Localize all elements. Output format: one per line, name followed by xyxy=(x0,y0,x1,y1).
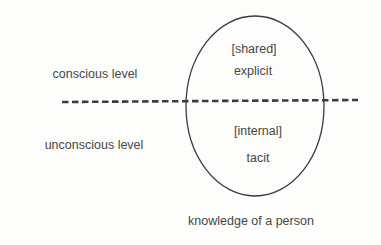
shared-tag: [shared] xyxy=(231,43,276,56)
conscious-level-label: conscious level xyxy=(53,68,138,81)
consciousness-divider-dashed-line xyxy=(62,100,358,102)
unconscious-level-label: unconscious level xyxy=(45,139,144,152)
explicit-term: explicit xyxy=(234,65,272,78)
diagram-caption: knowledge of a person xyxy=(188,215,314,228)
internal-tag: [internal] xyxy=(234,125,282,138)
knowledge-diagram: conscious level unconscious level [share… xyxy=(0,0,381,245)
diagram-graphics xyxy=(0,0,381,245)
tacit-term: tacit xyxy=(247,152,270,165)
